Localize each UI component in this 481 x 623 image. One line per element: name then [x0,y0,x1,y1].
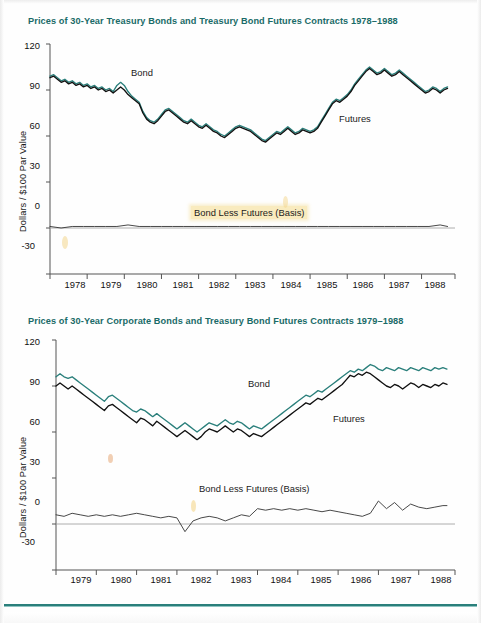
figure-page: Prices of 30-Year Treasury Bonds and Tre… [0,0,481,623]
footer-divider-rule-secondary [0,606,481,607]
figure-1-chart-svg [0,0,481,300]
figure-2-chart-svg [0,300,481,600]
figure-treasury-bonds: Prices of 30-Year Treasury Bonds and Tre… [0,0,481,305]
figure-corporate-bonds: Prices of 30-Year Corporate Bonds and Tr… [0,300,481,600]
figure-1-plot: 120 90 60 30 0 -30 Dollars / $100 Par Va… [0,0,481,300]
page-bottom-edge [0,612,481,623]
figure-2-plot: 120 90 60 30 0 -30 Dollars / $100 Par Va… [0,300,481,600]
